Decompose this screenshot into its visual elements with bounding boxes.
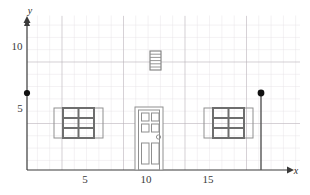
coordinate-plane-figure: 5 10 15 5 10 x y (0, 0, 310, 195)
y-tick-label-5: 5 (17, 102, 23, 114)
x-tick-label-15: 15 (203, 173, 215, 185)
x-tick-label-10: 10 (141, 173, 153, 185)
x-axis-label: x (293, 165, 299, 176)
y-tick-label-10: 10 (12, 40, 24, 52)
house-coordinate-plane-svg: 5 10 15 5 10 x y (0, 0, 310, 195)
vent (150, 51, 161, 70)
x-tick-label-5: 5 (82, 173, 88, 185)
y-axis-label: y (27, 5, 33, 16)
right-endpoint-point (258, 90, 265, 97)
left-endpoint-point (24, 90, 30, 96)
front-door (135, 107, 163, 170)
